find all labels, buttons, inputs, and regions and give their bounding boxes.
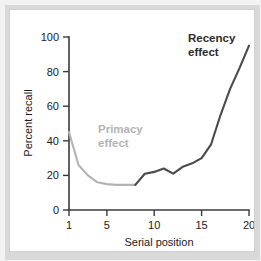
x-tick-label-15: 15	[195, 219, 207, 231]
x-axis-title: Serial position	[124, 236, 193, 248]
x-tick-label-1: 1	[66, 219, 72, 231]
x-tick-label-5: 5	[104, 219, 110, 231]
recency-effect-label-line2: effect	[188, 46, 219, 58]
y-tick-label-0: 0	[53, 204, 59, 216]
figure-root: 100 80 60 40 20 0 1 5 10 15 20 Serial po…	[0, 0, 261, 261]
y-tick-label-100: 100	[41, 31, 59, 43]
x-tick-label-20: 20	[243, 219, 254, 231]
chart-card: 100 80 60 40 20 0 1 5 10 15 20 Serial po…	[9, 9, 255, 252]
y-tick-label-60: 60	[47, 100, 59, 112]
x-tick-label-10: 10	[148, 219, 160, 231]
y-tick-label-80: 80	[47, 66, 59, 78]
y-tick-label-20: 20	[47, 169, 59, 181]
primacy-effect-label-line2: effect	[98, 137, 129, 149]
recency-effect-label-line1: Recency	[188, 32, 236, 44]
y-tick-label-40: 40	[47, 135, 59, 147]
y-axis-title: Percent recall	[22, 89, 34, 156]
serial-position-curve-chart: 100 80 60 40 20 0 1 5 10 15 20 Serial po…	[10, 10, 254, 251]
primacy-effect-label-line1: Primacy	[98, 123, 143, 135]
curve-recency-segment	[135, 46, 249, 185]
